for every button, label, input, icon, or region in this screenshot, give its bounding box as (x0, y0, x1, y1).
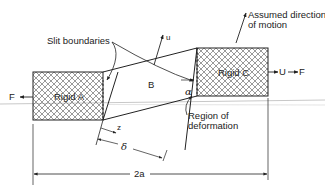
guide-line-2 (108, 105, 325, 106)
force-right-label: F (299, 66, 305, 77)
region-b: B (96, 48, 197, 150)
region-b-label: B (148, 79, 154, 90)
angle-alpha-label: α (185, 86, 192, 97)
dim-2a-label: 2a (134, 168, 145, 179)
rigid-c-label: Rigid C (218, 67, 249, 78)
slit-leader-right (112, 42, 193, 81)
region-deformation-label-2: deformation (188, 120, 238, 131)
force-left-label: F (9, 91, 15, 102)
slit-boundaries-label: Slit boundaries (47, 35, 110, 46)
rigid-a-label: Rigid A (54, 91, 85, 102)
velocity-u-arrow (154, 35, 163, 65)
velocity-right-label: U (279, 66, 286, 77)
assumed-direction-label-2: of motion (248, 19, 287, 30)
rigid-block-a: Rigid A (33, 72, 103, 120)
delta-extension (163, 150, 167, 161)
dim-z-label: z (117, 123, 121, 132)
velocity-u-label: u (166, 33, 170, 42)
rigid-block-c: Rigid C (197, 48, 268, 96)
dim-z-arrow (101, 128, 116, 133)
motion-direction-arrow (236, 13, 246, 43)
dim-delta-label: δ (121, 141, 127, 152)
dim-delta-arrow-left (98, 139, 118, 144)
slit-leader-left (107, 42, 116, 80)
deformation-diagram: Rigid A Rigid C B Slit boundaries u Assu… (0, 0, 325, 194)
dim-delta-arrow-right (133, 149, 162, 158)
